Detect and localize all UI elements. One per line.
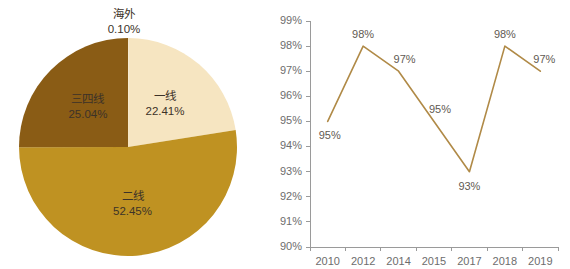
pie-slice-value-2: 52.45% — [113, 205, 152, 217]
y-tick-label-3: 93% — [280, 165, 302, 177]
x-tick-label-4: 2017 — [457, 255, 481, 267]
point-label-2: 97% — [394, 53, 416, 65]
y-axis: 90%91%92%93%94%95%96%97%98%99% — [280, 14, 310, 252]
y-tick-label-7: 97% — [280, 64, 302, 76]
x-tick-label-0: 2010 — [315, 255, 339, 267]
y-tick-label-4: 94% — [280, 139, 302, 151]
y-tick-label-5: 95% — [280, 114, 302, 126]
pie-chart-panel: 海外0.10%一线22.41%二线52.45%三四线25.04% — [0, 0, 258, 269]
line-chart-panel: 90%91%92%93%94%95%96%97%98%99% 201020122… — [258, 0, 570, 269]
y-tick-label-1: 91% — [280, 215, 302, 227]
dual-chart-figure: 海外0.10%一线22.41%二线52.45%三四线25.04% 90%91%9… — [0, 0, 570, 269]
y-tick-label-8: 98% — [280, 39, 302, 51]
pie-slice-name-2: 二线 — [122, 189, 145, 202]
x-tick-label-2: 2014 — [386, 255, 410, 267]
pie-slice-value-1: 22.41% — [145, 105, 184, 117]
y-tick-label-6: 96% — [280, 89, 302, 101]
pie-slice-name-0: 海外 — [113, 7, 136, 20]
point-label-6: 97% — [533, 53, 555, 65]
pie-slice-1 — [128, 38, 236, 147]
pie-slice-name-3: 三四线 — [71, 92, 105, 105]
x-tick-label-1: 2012 — [351, 255, 375, 267]
y-tick-label-9: 99% — [280, 14, 302, 26]
pie-slices-group — [19, 38, 237, 256]
pie-slice-value-0: 0.10% — [108, 23, 141, 35]
x-tick-label-5: 2018 — [493, 255, 517, 267]
line-point-labels-group: 95%98%97%95%93%98%97% — [319, 28, 556, 192]
pie-slice-value-3: 25.04% — [68, 108, 107, 120]
point-label-1: 98% — [352, 28, 374, 40]
x-tick-label-3: 2015 — [422, 255, 446, 267]
x-axis: 2010201220142015201720182019 — [310, 247, 558, 267]
x-tick-label-6: 2019 — [528, 255, 552, 267]
y-tick-label-2: 92% — [280, 190, 302, 202]
point-label-4: 93% — [458, 180, 480, 192]
point-label-0: 95% — [319, 129, 341, 141]
pie-slice-name-1: 一线 — [154, 89, 177, 102]
point-label-3: 95% — [429, 103, 451, 115]
line-chart-svg: 90%91%92%93%94%95%96%97%98%99% 201020122… — [258, 0, 570, 269]
pie-chart-svg: 海外0.10%一线22.41%二线52.45%三四线25.04% — [0, 0, 258, 269]
point-label-5: 98% — [494, 28, 516, 40]
y-tick-label-0: 90% — [280, 240, 302, 252]
